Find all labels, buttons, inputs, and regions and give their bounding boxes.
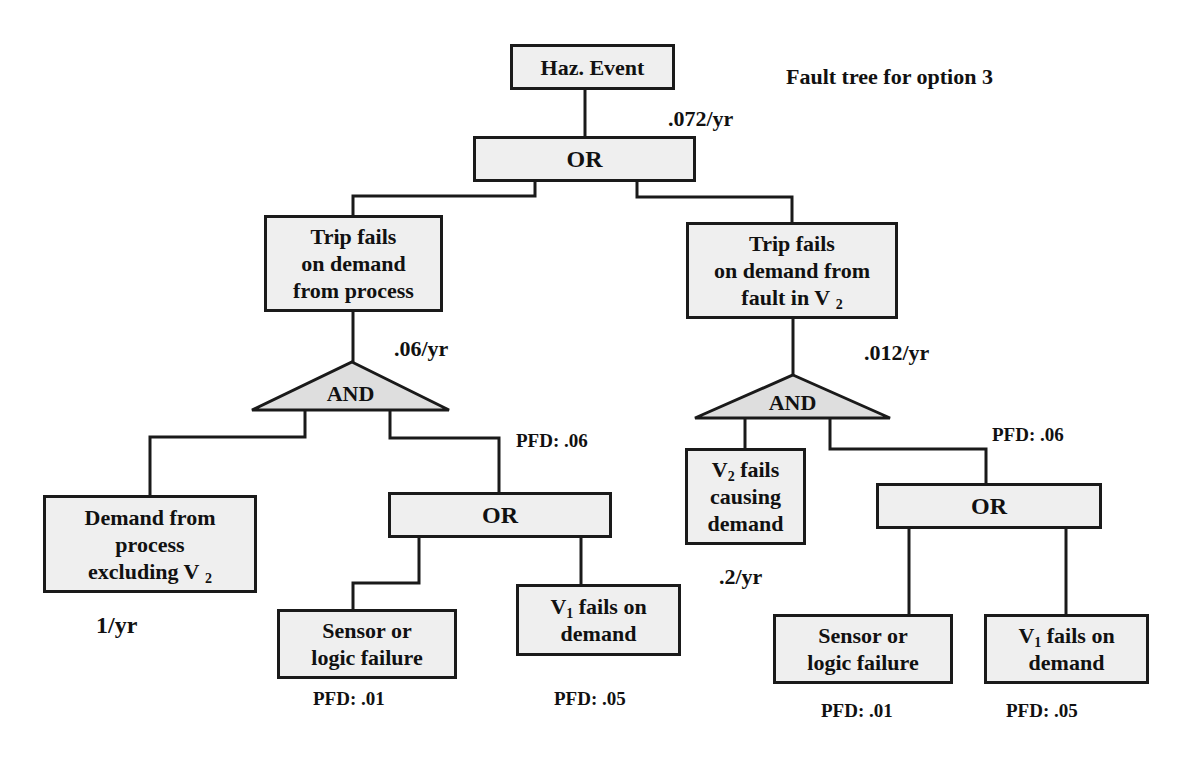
demand-line2: process (85, 531, 216, 558)
and-gate-left-label: AND (252, 381, 449, 407)
v2-prefix: V (712, 457, 728, 482)
left-event-trip-fails-process: Trip fails on demand from process (264, 215, 443, 312)
left-valve-prefix: V (550, 594, 566, 619)
top-or-label: OR (567, 146, 603, 173)
left-sensor-line1: Sensor or (311, 617, 422, 644)
right-event-subscript: 2 (836, 297, 843, 312)
left-event-line3: from process (293, 277, 414, 304)
and-gate-right: AND (695, 390, 890, 418)
left-event-line2: on demand (293, 250, 414, 277)
right-sub-or-gate: OR (876, 483, 1102, 529)
v2-line3: demand (708, 510, 784, 537)
right-valve-prefix: V (1018, 623, 1034, 648)
left-or-pfd: PFD: .06 (516, 430, 588, 452)
left-sensor-logic-failure-box: Sensor or logic failure (277, 609, 457, 679)
top-event-rate: .072/yr (668, 106, 733, 132)
v2-line1: fails (735, 457, 780, 482)
left-valve-v1-box: V1 fails on demand (516, 584, 681, 656)
line-or-to-sensor-left (353, 536, 419, 609)
demand-subscript: 2 (205, 571, 212, 586)
demand-line1: Demand from (85, 504, 216, 531)
right-valve-v1-box: V1 fails on demand (984, 614, 1149, 684)
demand-line3: excluding V (88, 559, 199, 584)
diagram-title: Fault tree for option 3 (786, 64, 993, 90)
top-event-haz-event: Haz. Event (510, 44, 675, 90)
right-valve-pfd: PFD: .05 (1006, 700, 1078, 722)
right-valve-line1: fails on (1041, 623, 1114, 648)
left-valve-line2: demand (550, 620, 646, 647)
right-event-trip-fails-v2: Trip fails on demand from fault in V 2 (686, 222, 898, 319)
top-event-label: Haz. Event (541, 54, 645, 81)
right-sensor-logic-failure-box: Sensor or logic failure (773, 614, 953, 684)
right-sub-or-label: OR (971, 493, 1007, 520)
left-event-rate: .06/yr (394, 336, 448, 362)
line-and-to-or-left (390, 410, 499, 493)
left-sub-or-gate: OR (388, 492, 612, 538)
top-or-gate: OR (473, 136, 696, 182)
right-event-line3: fault in V (741, 285, 830, 310)
left-valve-line1: fails on (573, 594, 646, 619)
line-and-to-or-right (830, 418, 986, 484)
right-valve-line2: demand (1018, 649, 1114, 676)
v2-subscript: 2 (728, 469, 735, 484)
line-or-to-right (637, 181, 792, 225)
right-or-pfd: PFD: .06 (992, 424, 1064, 446)
v2-rate: .2/yr (719, 564, 762, 590)
right-sensor-line1: Sensor or (807, 622, 918, 649)
and-gate-left: AND (252, 380, 449, 410)
right-event-line1: Trip fails (714, 230, 870, 257)
left-sub-or-label: OR (482, 502, 518, 529)
right-event-line2: on demand from (714, 257, 870, 284)
left-sensor-pfd: PFD: .01 (313, 688, 385, 710)
line-or-to-left (353, 181, 535, 218)
right-sensor-pfd: PFD: .01 (821, 700, 893, 722)
and-gate-right-label: AND (695, 390, 890, 416)
right-sensor-line2: logic failure (807, 649, 918, 676)
demand-rate: 1/yr (96, 612, 137, 639)
left-sensor-line2: logic failure (311, 644, 422, 671)
demand-from-process-box: Demand from process excluding V 2 (43, 495, 257, 593)
left-event-line1: Trip fails (293, 223, 414, 250)
right-event-rate: .012/yr (864, 340, 929, 366)
v2-line2: causing (708, 483, 784, 510)
left-valve-pfd: PFD: .05 (554, 688, 626, 710)
line-and-to-demand (150, 410, 305, 496)
v2-fails-causing-demand-box: V2 fails causing demand (685, 448, 806, 545)
